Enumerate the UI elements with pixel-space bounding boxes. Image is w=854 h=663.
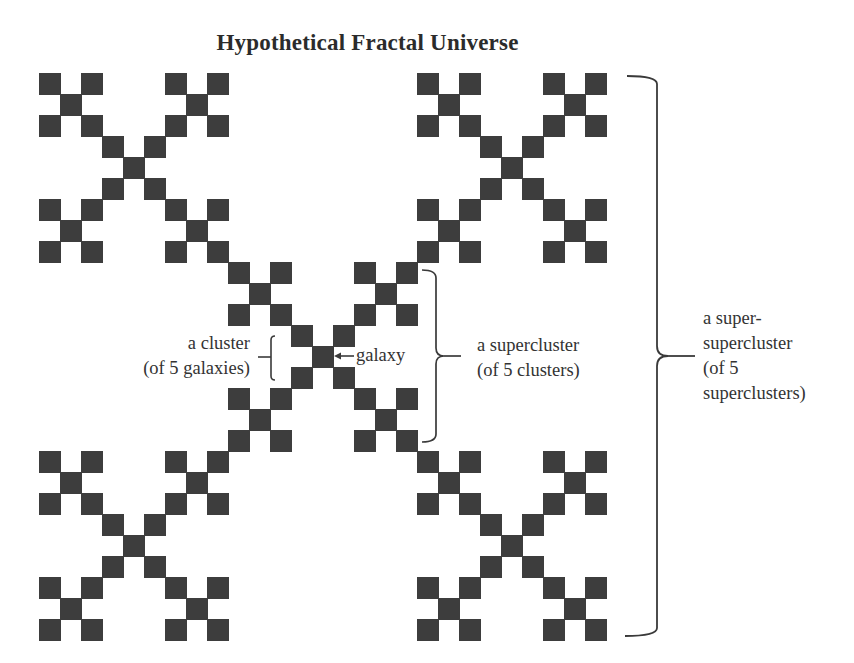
super-supercluster-label-line3: (of 5 — [703, 356, 806, 381]
galaxy-square — [207, 73, 229, 95]
galaxy-square — [564, 94, 586, 116]
galaxy-square — [585, 73, 607, 95]
galaxy-square — [39, 241, 61, 263]
galaxy-square — [438, 598, 460, 620]
galaxy-square — [81, 73, 103, 95]
galaxy-square — [81, 451, 103, 473]
galaxy-square — [480, 514, 502, 536]
galaxy-square — [39, 73, 61, 95]
galaxy-square — [228, 388, 250, 410]
galaxy-label-text: galaxy — [356, 343, 405, 368]
galaxy-square — [585, 619, 607, 641]
galaxy-square — [501, 157, 523, 179]
galaxy-square — [396, 262, 418, 284]
galaxy-square — [543, 241, 565, 263]
galaxy-square — [60, 598, 82, 620]
galaxy-square — [459, 451, 481, 473]
galaxy-square — [459, 73, 481, 95]
galaxy-square — [102, 556, 124, 578]
galaxy-square — [207, 241, 229, 263]
galaxy-square — [543, 73, 565, 95]
galaxy-square — [144, 136, 166, 158]
galaxy-square — [270, 262, 292, 284]
galaxy-square — [396, 304, 418, 326]
galaxy-square — [270, 304, 292, 326]
galaxy-square — [249, 283, 271, 305]
galaxy-square — [39, 619, 61, 641]
galaxy-square — [543, 493, 565, 515]
galaxy-square — [207, 619, 229, 641]
galaxy-square — [165, 493, 187, 515]
galaxy-square — [102, 178, 124, 200]
galaxy-square — [81, 619, 103, 641]
galaxy-square — [165, 451, 187, 473]
galaxy-square — [585, 199, 607, 221]
galaxy-square — [123, 535, 145, 557]
galaxy-square — [522, 178, 544, 200]
supercluster-label-line2: (of 5 clusters) — [477, 358, 580, 383]
galaxy-square — [522, 136, 544, 158]
galaxy-square — [543, 451, 565, 473]
galaxy-square — [417, 199, 439, 221]
galaxy-square — [396, 388, 418, 410]
galaxy-square — [165, 241, 187, 263]
galaxy-square — [144, 556, 166, 578]
galaxy-square — [417, 577, 439, 599]
galaxy-square — [186, 94, 208, 116]
galaxy-square — [354, 388, 376, 410]
galaxy-square — [60, 94, 82, 116]
galaxy-square — [39, 577, 61, 599]
galaxy-square — [585, 451, 607, 473]
galaxy-square — [270, 430, 292, 452]
galaxy-square — [39, 199, 61, 221]
super-supercluster-label: a super- supercluster (of 5 supercluster… — [703, 306, 806, 406]
galaxy-square — [417, 619, 439, 641]
galaxy-square — [102, 514, 124, 536]
galaxy-square — [186, 598, 208, 620]
galaxy-square — [228, 304, 250, 326]
galaxy-square — [165, 199, 187, 221]
galaxy-square — [102, 136, 124, 158]
galaxy-square — [480, 136, 502, 158]
galaxy-square — [522, 514, 544, 536]
galaxy-square — [522, 556, 544, 578]
galaxy-square — [438, 94, 460, 116]
galaxy-square — [207, 493, 229, 515]
galaxy-square — [39, 451, 61, 473]
galaxy-square — [144, 178, 166, 200]
galaxy-square — [333, 325, 355, 347]
galaxy-square — [144, 514, 166, 536]
galaxy-square — [459, 493, 481, 515]
galaxy-square — [564, 472, 586, 494]
cluster-label-line2: (of 5 galaxies) — [143, 356, 250, 381]
galaxy-square — [480, 556, 502, 578]
galaxy-square — [585, 577, 607, 599]
galaxy-square — [459, 241, 481, 263]
galaxy-square — [543, 619, 565, 641]
galaxy-square — [459, 115, 481, 137]
galaxy-square — [459, 199, 481, 221]
galaxy-square — [207, 199, 229, 221]
galaxy-square — [207, 115, 229, 137]
supercluster-label: a supercluster (of 5 clusters) — [477, 333, 580, 383]
galaxy-square — [480, 178, 502, 200]
galaxy-square — [354, 430, 376, 452]
galaxy-square — [417, 493, 439, 515]
galaxy-square — [543, 115, 565, 137]
galaxy-label: galaxy — [356, 343, 405, 368]
galaxy-square — [81, 115, 103, 137]
galaxy-square — [165, 115, 187, 137]
galaxy-square — [564, 220, 586, 242]
galaxy-square — [396, 430, 418, 452]
galaxy-square — [417, 451, 439, 473]
galaxy-square — [39, 115, 61, 137]
galaxy-square — [60, 220, 82, 242]
galaxy-square — [291, 325, 313, 347]
galaxy-square — [564, 598, 586, 620]
galaxy-square — [249, 409, 271, 431]
galaxy-square — [81, 577, 103, 599]
galaxy-square — [207, 577, 229, 599]
galaxy-square — [585, 115, 607, 137]
galaxy-square — [270, 388, 292, 410]
galaxy-square — [585, 241, 607, 263]
